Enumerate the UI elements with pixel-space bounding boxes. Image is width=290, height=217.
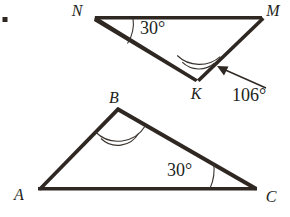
angle-arc-c — [210, 162, 214, 189]
vertex-label-m: M — [265, 2, 281, 19]
triangle-abc — [38, 107, 257, 191]
angle-label-k-106: 106° — [232, 85, 266, 105]
geometry-figure: N M K 30° 106° A B C 30° — [0, 0, 290, 217]
vertex-label-k: K — [190, 85, 203, 102]
angle-label-c-30: 30° — [167, 160, 192, 180]
figure-canvas: N M K 30° 106° A B C 30° — [0, 0, 290, 217]
vertex-label-b: B — [109, 89, 119, 106]
angle-label-n-30: 30° — [140, 18, 165, 38]
triangle-nmk — [94, 16, 265, 82]
vertex-label-c: C — [266, 188, 277, 205]
vertex-label-n: N — [71, 2, 84, 19]
vertex-label-a: A — [13, 186, 24, 203]
list-bullet-icon — [3, 17, 8, 22]
segment-ab — [38, 107, 121, 191]
segment-ac — [38, 187, 257, 191]
segment-nm — [95, 16, 262, 20]
